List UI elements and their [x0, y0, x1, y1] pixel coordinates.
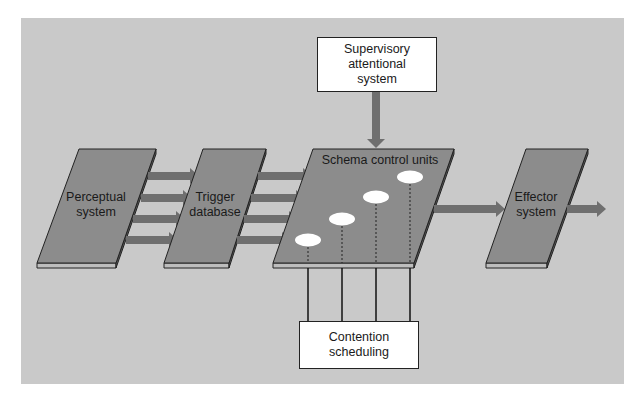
effector-system-label: Effector system: [503, 190, 569, 220]
schema-unit-1: [295, 234, 321, 247]
trigger-label-line1: Trigger: [182, 190, 248, 205]
perceptual-label-line2: system: [56, 205, 136, 220]
effector-label-line1: Effector: [503, 190, 569, 205]
schema-control-units-label: Schema control units: [310, 153, 450, 168]
cs-label-line1: Contention: [329, 330, 389, 345]
schema-unit-4: [397, 171, 423, 184]
schema-unit-3: [363, 191, 389, 204]
contention-scheduling-box: Contention scheduling: [299, 321, 419, 369]
perceptual-system-label: Perceptual system: [56, 190, 136, 220]
contention-scheduling-links: [308, 268, 410, 321]
diagram-canvas: Supervisory attentional system Perceptua…: [0, 0, 643, 399]
arrow-schema-to-effector: [434, 201, 505, 217]
sas-label-line2: attentional: [344, 57, 410, 72]
sas-label-line3: system: [344, 72, 410, 87]
schema-unit-2: [329, 213, 355, 226]
sas-label-line1: Supervisory: [344, 42, 410, 57]
supervisory-attentional-system-box: Supervisory attentional system: [317, 37, 437, 92]
trigger-database-label: Trigger database: [182, 190, 248, 220]
trigger-label-line2: database: [182, 205, 248, 220]
perceptual-label-line1: Perceptual: [56, 190, 136, 205]
arrow-sas-to-schema: [367, 92, 385, 148]
cs-label-line2: scheduling: [329, 345, 389, 360]
arrow-effector-output: [567, 201, 606, 217]
effector-label-line2: system: [503, 205, 569, 220]
